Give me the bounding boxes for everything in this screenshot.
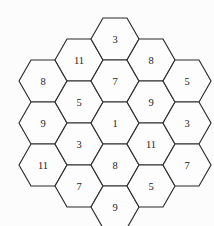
hex-cell-label: 7 (76, 181, 81, 192)
hex-cell-label: 5 (148, 181, 153, 192)
hex-cell-label: 9 (112, 202, 117, 213)
hexagon-grid: 8911115373718989115537 (0, 0, 214, 226)
hex-cell-label: 7 (184, 160, 189, 171)
hex-cell-label: 11 (38, 160, 48, 171)
hex-cell-label: 3 (112, 34, 117, 45)
hex-cell-label: 11 (74, 55, 84, 66)
hex-cell-label: 8 (40, 76, 45, 87)
hex-cell-label: 5 (184, 76, 189, 87)
hex-cell-label: 3 (184, 118, 189, 129)
hex-cell-label: 9 (148, 97, 153, 108)
hexagon-board: 8911115373718989115537 (0, 0, 214, 226)
hex-cell-label: 8 (112, 160, 117, 171)
hex-cell-label: 7 (112, 76, 117, 87)
hex-cell-label: 5 (76, 97, 81, 108)
hex-cell-label: 11 (146, 139, 156, 150)
hex-cell-label: 1 (112, 118, 117, 129)
hex-cell-label: 8 (148, 55, 153, 66)
hex-cell-label: 9 (40, 118, 45, 129)
hex-cell-label: 3 (76, 139, 81, 150)
